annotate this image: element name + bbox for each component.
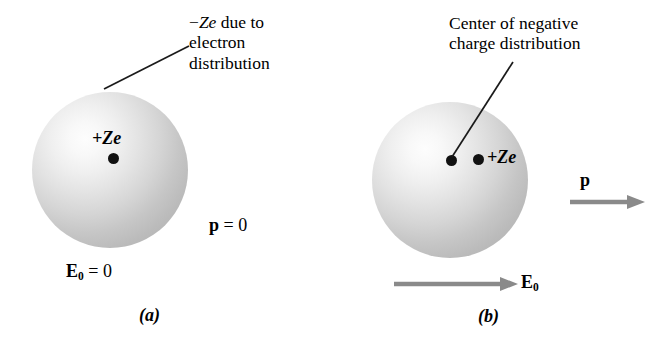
nucleus-charge-e-b: e — [508, 147, 516, 167]
field-value-a: = 0 — [84, 261, 112, 281]
nucleus-charge-sign-b: + — [487, 147, 497, 167]
dipole-moment-label-b: p — [580, 170, 590, 191]
leader-line-a — [104, 46, 189, 89]
electron-cloud-sphere-a — [32, 92, 188, 248]
annotation-line3-a: distribution — [189, 53, 270, 73]
external-field-label-a: E0 = 0 — [66, 261, 112, 283]
field-symbol-b: E — [521, 272, 533, 292]
positive-nucleus-dot-a — [108, 153, 119, 164]
dipole-value-a: = 0 — [219, 215, 247, 235]
nucleus-charge-sign-a: + — [92, 128, 102, 148]
panel-caption-a: (a) — [139, 305, 160, 326]
nucleus-charge-e-a: e — [113, 128, 121, 148]
nucleus-charge-label-b: +Ze — [487, 147, 516, 168]
annotation-rest-a: due to — [216, 12, 264, 32]
nucleus-charge-label-a: +Ze — [92, 128, 121, 149]
physics-figure-atomic-polarization: +Ze −Ze due toelectrondistribution p = 0… — [0, 0, 672, 343]
annotation-z-a: Z — [199, 12, 209, 32]
nucleus-charge-z-a: Z — [102, 128, 113, 148]
dipole-moment-label-a: p = 0 — [209, 215, 247, 236]
dipole-symbol-a: p — [209, 215, 219, 235]
negative-center-annotation-b: Center of negativecharge distribution — [449, 13, 580, 54]
field-symbol-a: E — [66, 261, 78, 281]
annotation-sign-a: − — [189, 12, 199, 32]
electron-cloud-sphere-b — [372, 102, 528, 258]
annotation-line2-a: electron — [189, 32, 245, 52]
annotation-line1-b: Center of negative — [449, 13, 578, 33]
negative-charge-center-dot-b — [446, 155, 457, 166]
electron-distribution-annotation-a: −Ze due toelectrondistribution — [189, 12, 270, 73]
external-field-label-b: E0 — [521, 272, 539, 294]
positive-nucleus-dot-b — [473, 154, 484, 165]
panel-caption-b: (b) — [478, 306, 499, 327]
external-field-arrow-b — [394, 277, 518, 291]
annotation-line2-b: charge distribution — [449, 33, 580, 53]
field-subscript-b: 0 — [533, 281, 539, 293]
dipole-moment-arrow-b — [570, 195, 645, 209]
nucleus-charge-z-b: Z — [497, 147, 508, 167]
